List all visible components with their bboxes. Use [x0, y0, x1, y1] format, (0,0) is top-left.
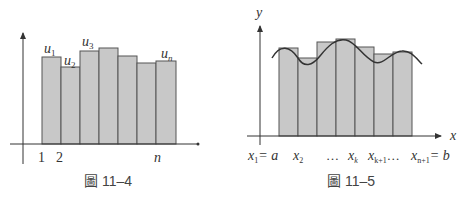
- tick-n: n: [154, 150, 161, 165]
- figure-11-4: u1 u2 u3 un 1 2 n 圖 11–4: [10, 33, 200, 189]
- bar-3: [80, 51, 99, 144]
- bar-6: [137, 63, 156, 144]
- tick-2: 2: [56, 150, 63, 165]
- label-u1: u1: [44, 41, 56, 58]
- bar-4: [99, 48, 118, 144]
- tick-xk1: xk+1…: [367, 148, 400, 165]
- x-axis-label: x: [449, 128, 457, 143]
- bar-5: [118, 56, 137, 144]
- bar-1: [279, 48, 298, 136]
- bar-2: [61, 67, 80, 144]
- caption-11-5: 圖 11–5: [327, 173, 375, 189]
- riemann-bars: [279, 39, 412, 136]
- bar-2: [298, 58, 317, 136]
- label-un: un: [161, 46, 173, 63]
- figure-canvas: u1 u2 u3 un 1 2 n 圖 11–4 y x x1= a x2 …: [0, 0, 464, 197]
- figure-11-5: y x x1= a x2 … xk xk+1… xn+1= b 圖 11–5: [247, 5, 457, 189]
- tick-xk: xk: [347, 148, 358, 165]
- bar-6: [374, 54, 393, 136]
- tick-ellipsis: …: [326, 148, 339, 163]
- bar-7: [393, 52, 412, 136]
- bar-n: [156, 61, 176, 144]
- label-u3: u3: [82, 34, 94, 51]
- caption-11-4: 圖 11–4: [84, 173, 132, 189]
- bar-4: [336, 39, 355, 136]
- tick-1: 1: [38, 150, 45, 165]
- tick-xn1-b: xn+1= b: [410, 148, 450, 165]
- tick-x2: x2: [292, 148, 303, 165]
- tick-x1-a: x1= a: [247, 148, 278, 165]
- label-u2: u2: [64, 53, 76, 70]
- y-axis-label: y: [254, 5, 263, 20]
- bar-1: [42, 57, 61, 144]
- x-axis-end-dot: [197, 143, 200, 146]
- histogram-bars: [42, 48, 176, 144]
